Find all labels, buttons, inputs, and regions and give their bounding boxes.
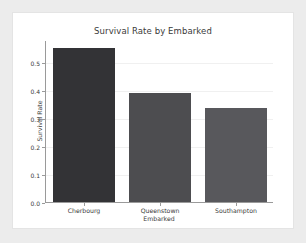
x-axis-spine	[45, 202, 273, 203]
y-tick-label: 0.0	[30, 200, 40, 207]
x-tick-mark	[236, 203, 237, 206]
x-tick-label: Queenstown	[141, 207, 180, 214]
y-tick-label: 0.5	[30, 60, 40, 67]
bar-series	[46, 41, 273, 202]
y-tick-mark	[42, 91, 45, 92]
y-tick-mark	[42, 175, 45, 176]
screenshot-page: Survival Rate by Embarked Survival Rate …	[0, 0, 306, 243]
x-tick-label: Southampton	[215, 207, 257, 214]
chart-title: Survival Rate by Embarked	[13, 26, 293, 36]
y-tick-label: 0.3	[30, 116, 40, 123]
x-tick-mark	[160, 203, 161, 206]
chart-card: Survival Rate by Embarked Survival Rate …	[13, 13, 293, 228]
y-tick-label: 0.1	[30, 172, 40, 179]
y-tick-mark	[42, 203, 45, 204]
matplotlib-figure: Survival Rate by Embarked Survival Rate …	[13, 13, 293, 228]
x-tick-label: Cherbourg	[68, 207, 101, 214]
y-tick-label: 0.2	[30, 144, 40, 151]
bar-queenstown	[129, 93, 191, 202]
y-tick-mark	[42, 147, 45, 148]
bar-cherbourg	[53, 48, 115, 202]
plot-area: 0.00.10.20.30.40.5 CherbourgQueenstownSo…	[45, 41, 273, 203]
y-tick-label: 0.4	[30, 88, 40, 95]
x-tick-mark	[84, 203, 85, 206]
x-axis-label: Embarked	[45, 215, 273, 222]
y-tick-mark	[42, 63, 45, 64]
y-tick-mark	[42, 119, 45, 120]
bar-southampton	[205, 108, 267, 202]
